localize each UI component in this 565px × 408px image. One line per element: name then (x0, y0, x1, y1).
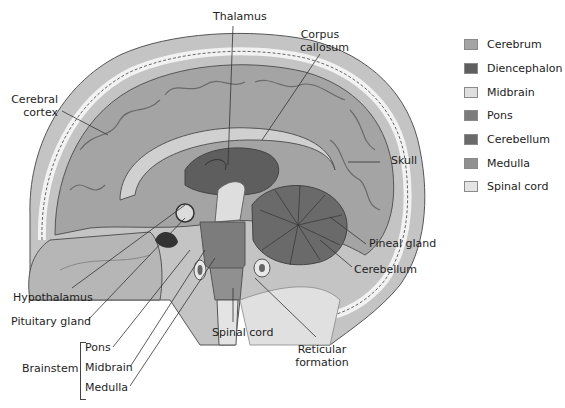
label-pons: Pons (85, 341, 111, 354)
label-thalamus: Thalamus (213, 10, 267, 23)
legend-item-cerebrum: Cerebrum (464, 33, 563, 57)
pituitary (176, 204, 194, 222)
swatch (464, 181, 478, 192)
legend-item-midbrain: Midbrain (464, 80, 563, 104)
label-midbrain: Midbrain (85, 361, 133, 374)
legend-item-pons: Pons (464, 104, 563, 128)
label-reticular-formation: Reticular formation (292, 343, 352, 369)
legend-label: Diencephalon (487, 62, 563, 75)
label-cerebellum: Cerebellum (354, 263, 417, 276)
label-corpus-callosum: Corpus callosum (300, 28, 340, 54)
label-cortex-line1: Cerebral (6, 93, 58, 106)
legend-label: Cerebrum (487, 38, 542, 51)
legend-item-diencephalon: Diencephalon (464, 57, 563, 81)
legend-label: Pons (487, 109, 513, 122)
nasal-cavity (29, 232, 162, 300)
legend-item-medulla: Medulla (464, 151, 563, 175)
legend-label: Spinal cord (487, 180, 548, 193)
legend-label: Cerebellum (487, 133, 550, 146)
label-skull: Skull (391, 154, 417, 167)
label-cerebral-cortex: Cerebral cortex (6, 93, 58, 119)
legend: Cerebrum Diencephalon Midbrain Pons Cere… (464, 33, 563, 199)
swatch (464, 87, 478, 98)
label-cortex-line2: cortex (6, 106, 58, 119)
label-corpus-line1: Corpus (300, 28, 340, 41)
label-spinal-cord: Spinal cord (212, 326, 273, 339)
label-corpus-line2: callosum (300, 41, 340, 54)
legend-item-cerebellum: Cerebellum (464, 128, 563, 152)
pons (200, 222, 245, 273)
swatch (464, 63, 478, 74)
legend-label: Medulla (487, 157, 530, 170)
label-reticular-line2: formation (292, 356, 352, 369)
legend-item-spinal-cord: Spinal cord (464, 175, 563, 199)
label-pituitary-gland: Pituitary gland (11, 315, 91, 328)
label-reticular-line1: Reticular (292, 343, 352, 356)
label-pineal-gland: Pineal gland (369, 237, 436, 250)
medulla (210, 268, 243, 300)
swatch (464, 110, 478, 121)
label-hypothalamus: Hypothalamus (13, 291, 93, 304)
swatch (464, 134, 478, 145)
label-brainstem: Brainstem (22, 362, 78, 375)
label-medulla: Medulla (85, 381, 128, 394)
legend-label: Midbrain (487, 86, 535, 99)
swatch (464, 39, 478, 50)
swatch (464, 158, 478, 169)
